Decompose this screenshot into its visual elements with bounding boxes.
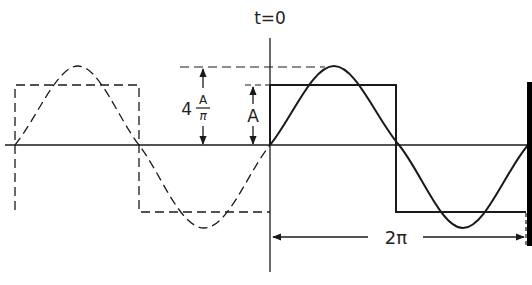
sine-amplitude-den: π — [199, 109, 207, 123]
sine-amplitude-num: A — [199, 93, 208, 107]
edge-band — [527, 82, 532, 246]
period-label: 2π — [385, 227, 407, 248]
waveform-diagram: t=0 4 A π A 2π — [0, 0, 532, 285]
sine-wave-dashed — [15, 66, 270, 228]
time-origin-label: t=0 — [254, 8, 286, 28]
square-wave-dashed — [15, 85, 270, 212]
square-amplitude-label: A — [247, 106, 259, 126]
sine-amplitude-coef: 4 — [181, 99, 192, 119]
square-wave-solid — [270, 85, 526, 212]
sine-wave-solid — [270, 66, 528, 228]
